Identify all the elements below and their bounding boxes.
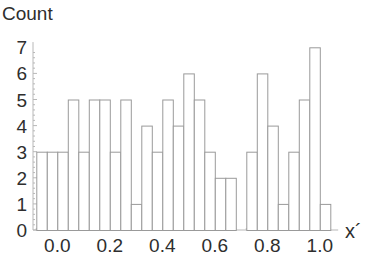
y-axis: 01234567 [16, 37, 37, 241]
histogram-bar [299, 100, 310, 231]
histogram-bar [131, 204, 142, 230]
histogram-bar [79, 152, 90, 230]
histogram-bar [37, 152, 48, 230]
histogram-bar [58, 152, 69, 230]
histogram-bar [110, 152, 121, 230]
histogram-bar [68, 100, 79, 231]
histogram-bar [205, 152, 216, 230]
histogram-bar [215, 178, 226, 230]
histogram-bar [163, 100, 174, 231]
histogram-bar [289, 152, 300, 230]
histogram-bar [100, 100, 111, 231]
y-tick-label: 4 [16, 116, 27, 137]
histogram-bar [47, 152, 58, 230]
y-tick-label: 7 [16, 37, 27, 58]
histogram-bar [226, 178, 237, 230]
histogram-bar [310, 48, 321, 231]
histogram-bar [278, 204, 289, 230]
histogram-bar [152, 152, 163, 230]
histogram-bar [194, 100, 205, 231]
histogram-bar [247, 152, 257, 230]
histogram-bar [121, 100, 132, 231]
y-tick-label: 0 [16, 220, 27, 241]
histogram-bar [268, 126, 279, 230]
histogram-bar [173, 126, 184, 230]
histogram-bars [37, 48, 331, 231]
x-tick-label: 0.0 [44, 235, 70, 256]
x-tick-label: 0.8 [254, 235, 280, 256]
x-tick-label: 1.0 [307, 235, 333, 256]
x-tick-label: 0.2 [97, 235, 123, 256]
y-axis-label: Count [2, 3, 53, 24]
histogram-bar [184, 74, 195, 231]
y-tick-label: 1 [16, 194, 27, 215]
histogram-bar [142, 126, 153, 230]
y-tick-label: 2 [16, 168, 27, 189]
x-tick-label: 0.4 [149, 235, 176, 256]
y-tick-label: 6 [16, 63, 27, 84]
x-axis-label: x´ [345, 220, 362, 242]
x-tick-label: 0.6 [202, 235, 228, 256]
histogram-bar [320, 204, 331, 230]
y-tick-label: 5 [16, 90, 27, 111]
y-tick-label: 3 [16, 142, 27, 163]
histogram-chart: Count 01234567 0.00.20.40.60.81.0 x´ [0, 0, 375, 265]
histogram-bar [257, 74, 268, 231]
histogram-bar [89, 100, 100, 231]
